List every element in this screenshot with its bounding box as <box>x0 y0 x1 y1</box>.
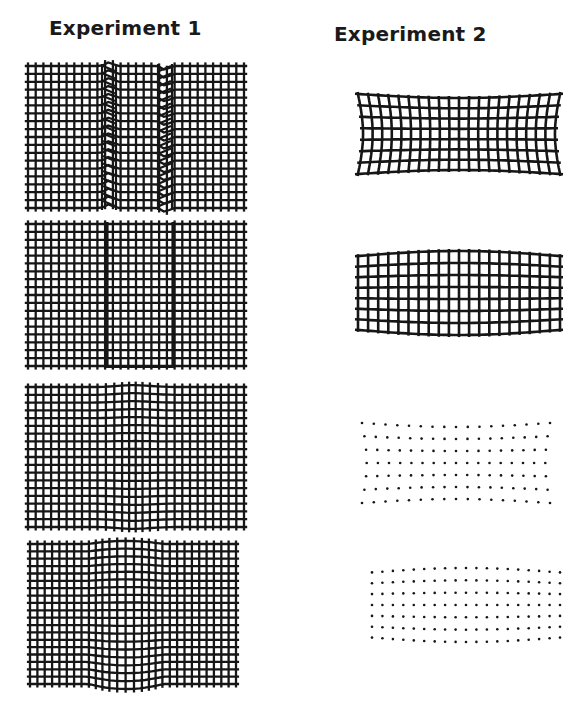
experiment-2-dot-panel-3 <box>358 419 554 507</box>
experiment-2-title: Experiment 2 <box>334 22 487 46</box>
experiment-2-grid-panel-1 <box>354 90 564 178</box>
experiment-1-grid-panel-2 <box>24 220 248 370</box>
experiment-1-grid-panel-3 <box>24 383 248 531</box>
experiment-1-grid-panel-1 <box>24 62 248 212</box>
experiment-1-title: Experiment 1 <box>49 16 202 40</box>
experiment-1-grid-panel-4 <box>26 540 240 688</box>
experiment-2-grid-panel-2 <box>354 247 564 339</box>
experiment-2-dot-panel-4 <box>368 564 564 646</box>
